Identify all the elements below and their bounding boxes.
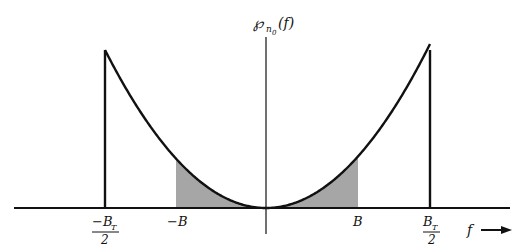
arrow-right-icon [501,226,512,234]
psd-curve [105,44,430,208]
x-axis-label: f [466,222,512,238]
tick-label-neg-b: −B [167,214,187,229]
svg-text:T: T [111,223,117,232]
svg-text:0: 0 [272,29,277,37]
svg-text:2: 2 [100,233,109,246]
svg-text:B: B [422,214,433,229]
svg-text:2: 2 [427,233,436,246]
tick-label-pos-bt-half: B T 2 [422,214,440,246]
svg-text:f: f [466,222,475,238]
tick-label-pos-b: B [352,214,363,229]
y-axis-label: ℘ n 0 (f) [253,14,294,37]
svg-text:(f): (f) [278,15,294,31]
tick-label-neg-bt-half: −B T 2 [92,214,119,246]
svg-text:℘: ℘ [253,14,265,32]
svg-text:T: T [432,223,438,232]
psd-diagram: ℘ n 0 (f) −B T 2 −B B B T 2 f [0,0,521,246]
svg-text:−B: −B [92,214,112,229]
